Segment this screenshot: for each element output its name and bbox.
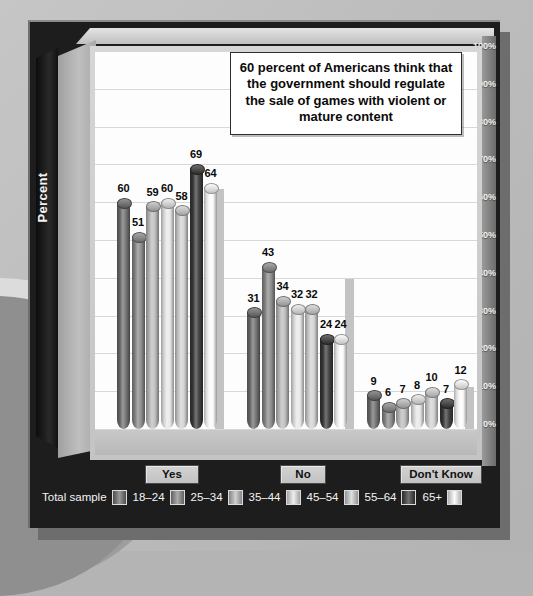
legend-item-label: 45–54 bbox=[307, 491, 339, 503]
bar-body bbox=[146, 206, 159, 429]
bar: 32 bbox=[291, 308, 304, 429]
legend-item-label: 35–44 bbox=[249, 491, 281, 503]
chart-legend: Total sample18–2425–3435–4445–5455–6465+ bbox=[42, 484, 490, 510]
legend-item[interactable]: 18–24 bbox=[133, 490, 185, 505]
legend-swatch bbox=[170, 490, 185, 505]
legend-item[interactable]: 25–34 bbox=[191, 490, 243, 505]
bar-body bbox=[454, 384, 467, 429]
bar-body bbox=[247, 312, 260, 429]
bar-top-cap bbox=[440, 398, 455, 409]
bar: 12 bbox=[454, 384, 467, 429]
bar-value-label: 24 bbox=[321, 318, 361, 330]
bar-value-label: 43 bbox=[248, 246, 288, 258]
legend-item-label: 18–24 bbox=[133, 491, 165, 503]
legend-item[interactable]: 55–64 bbox=[365, 490, 417, 505]
bar-top-cap bbox=[411, 394, 426, 405]
bar-top-cap bbox=[334, 334, 349, 345]
bar-body bbox=[132, 236, 145, 429]
legend-item-label: 55–64 bbox=[365, 491, 397, 503]
bar-body bbox=[334, 338, 347, 429]
bar-top-cap bbox=[291, 304, 306, 315]
legend-swatch bbox=[286, 490, 301, 505]
frame-top-bevel bbox=[76, 28, 494, 44]
group-label-no: No bbox=[280, 465, 326, 484]
bar: 51 bbox=[132, 236, 145, 429]
bar-top-cap bbox=[396, 398, 411, 409]
bar: 69 bbox=[190, 168, 203, 429]
group-label-yes: Yes bbox=[145, 465, 199, 484]
plot-floor bbox=[95, 429, 477, 455]
legend-swatch bbox=[228, 490, 243, 505]
bar-top-cap bbox=[305, 304, 320, 315]
bar-body bbox=[161, 202, 174, 429]
bar: 59 bbox=[146, 206, 159, 429]
y-axis-band bbox=[36, 48, 58, 448]
chart-callout-title: 60 percent of Americans think that the g… bbox=[230, 52, 462, 135]
bar: 7 bbox=[440, 403, 453, 429]
legend-swatch bbox=[447, 490, 462, 505]
chart-panel: Percent 100%90%80%70%60%50%40%30%20%10%0… bbox=[28, 20, 500, 528]
bar-body bbox=[291, 308, 304, 429]
legend-item-label: Total sample bbox=[42, 491, 107, 503]
y-axis-title: Percent bbox=[35, 148, 50, 248]
bar: 24 bbox=[320, 338, 333, 429]
bar-body bbox=[175, 210, 188, 429]
bar-body bbox=[320, 338, 333, 429]
bar-top-cap bbox=[132, 232, 147, 243]
legend-item[interactable]: Total sample bbox=[42, 490, 127, 505]
legend-item-label: 25–34 bbox=[191, 491, 223, 503]
bar: 7 bbox=[396, 403, 409, 429]
bar-top-cap bbox=[204, 183, 219, 194]
bar-body bbox=[190, 168, 203, 429]
legend-swatch bbox=[112, 490, 127, 505]
y-axis-tick-label: 0% bbox=[483, 419, 496, 429]
bar-value-label: 64 bbox=[191, 167, 231, 179]
gridline bbox=[95, 429, 477, 430]
legend-item[interactable]: 35–44 bbox=[249, 490, 301, 505]
bar-value-label: 12 bbox=[441, 364, 481, 376]
legend-item[interactable]: 45–54 bbox=[307, 490, 359, 505]
bar-top-cap bbox=[382, 402, 397, 413]
group-label-don-t-know: Don't Know bbox=[400, 465, 482, 484]
bar-value-label: 32 bbox=[292, 288, 332, 300]
frame-right-bevel bbox=[482, 36, 496, 466]
bar-top-cap bbox=[262, 262, 277, 273]
bar-top-cap bbox=[320, 334, 335, 345]
legend-item[interactable]: 65+ bbox=[422, 490, 462, 505]
bar-body bbox=[117, 202, 130, 429]
bar: 10 bbox=[425, 391, 438, 429]
legend-item-label: 65+ bbox=[422, 491, 442, 503]
bar: 58 bbox=[175, 210, 188, 429]
bar-top-cap bbox=[117, 198, 132, 209]
legend-swatch bbox=[344, 490, 359, 505]
bar: 64 bbox=[204, 187, 217, 429]
bar: 8 bbox=[411, 399, 424, 429]
bar-body bbox=[204, 187, 217, 429]
bar: 31 bbox=[247, 312, 260, 429]
bar: 60 bbox=[161, 202, 174, 429]
bar: 6 bbox=[382, 406, 395, 429]
legend-swatch bbox=[401, 490, 416, 505]
bar: 9 bbox=[367, 395, 380, 429]
bar: 60 bbox=[117, 202, 130, 429]
bar: 24 bbox=[334, 338, 347, 429]
bar-body bbox=[276, 300, 289, 429]
bar: 34 bbox=[276, 300, 289, 429]
panel-face: Percent 100%90%80%70%60%50%40%30%20%10%0… bbox=[28, 20, 500, 528]
bar-value-label: 69 bbox=[176, 148, 216, 160]
gridline bbox=[95, 164, 477, 165]
